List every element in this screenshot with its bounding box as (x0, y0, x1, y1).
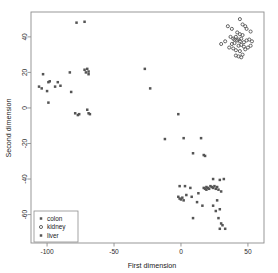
data-point-colon (177, 113, 180, 116)
x-axis-label: First dimension (128, 261, 177, 270)
data-point-kidney (238, 50, 241, 53)
data-point-liver (216, 199, 219, 202)
data-point-kidney (244, 48, 247, 51)
data-point-liver (192, 152, 195, 155)
data-point-liver (201, 204, 204, 207)
data-point-colon (78, 113, 81, 116)
data-point-liver (192, 217, 195, 220)
x-tick-label: -100 (40, 248, 54, 255)
data-points-layer (38, 18, 254, 230)
data-point-colon (47, 101, 50, 104)
series-kidney (220, 18, 254, 59)
y-tick-label: -40 (21, 174, 28, 184)
data-point-colon (46, 90, 49, 93)
series-liver (177, 137, 226, 230)
y-tick-label: 40 (21, 33, 28, 41)
data-point-kidney (250, 40, 253, 43)
data-point-colon (38, 85, 41, 88)
x-tick-label: 0 (179, 248, 183, 255)
data-point-liver (212, 204, 215, 207)
data-point-liver (217, 188, 220, 191)
data-point-colon (83, 69, 86, 72)
data-point-colon (57, 81, 60, 84)
data-point-colon (86, 68, 89, 71)
data-point-kidney (232, 47, 235, 50)
data-point-colon (87, 73, 90, 76)
data-point-colon (89, 113, 92, 116)
x-axis-ticks: -100-50050 (40, 243, 251, 255)
data-point-liver (224, 228, 227, 231)
plot-border (31, 12, 264, 243)
legend-label-liver: liver (47, 232, 60, 239)
data-point-colon (144, 68, 147, 71)
data-point-liver (213, 185, 216, 188)
data-point-kidney (249, 30, 252, 33)
data-point-kidney (234, 35, 237, 38)
data-point-liver (182, 137, 185, 140)
legend-label-kidney: kidney (47, 223, 66, 231)
data-point-colon (54, 85, 57, 88)
data-point-kidney (224, 40, 227, 43)
data-point-colon (48, 80, 51, 83)
data-point-liver (219, 179, 222, 182)
data-point-liver (217, 217, 220, 220)
x-tick-label: -50 (109, 248, 119, 255)
data-point-liver (185, 194, 188, 197)
data-point-liver (208, 188, 211, 191)
data-point-kidney (245, 27, 248, 30)
y-tick-label: 0 (21, 106, 28, 110)
data-point-liver (190, 196, 193, 199)
data-point-kidney (238, 18, 241, 21)
data-point-colon (59, 84, 62, 87)
y-tick-label: -60 (21, 209, 28, 219)
data-point-liver (189, 187, 192, 190)
data-point-colon (70, 91, 73, 94)
scatter-plot-figure: -100-50050 40200-20-40-60 First dimensio… (0, 0, 278, 273)
data-point-colon (74, 112, 77, 115)
data-point-liver (178, 185, 181, 188)
data-point-liver (181, 196, 184, 199)
data-point-kidney (226, 25, 229, 28)
data-point-kidney (241, 53, 244, 56)
data-point-kidney (249, 44, 252, 47)
legend-marker-liver (40, 234, 43, 237)
data-point-kidney (220, 42, 223, 45)
data-point-liver (182, 199, 185, 202)
data-point-liver (212, 178, 215, 181)
legend-label-colon: colon (47, 215, 63, 222)
data-point-liver (216, 186, 219, 189)
x-tick-label: 50 (244, 248, 252, 255)
data-point-colon (40, 87, 43, 90)
data-point-liver (219, 228, 222, 231)
y-tick-label: -20 (21, 138, 28, 148)
data-point-colon (42, 73, 45, 76)
data-point-kidney (230, 27, 233, 30)
data-point-colon (86, 108, 89, 111)
data-point-liver (215, 210, 218, 213)
data-point-colon (164, 138, 167, 141)
y-tick-label: 20 (21, 68, 28, 76)
data-point-liver (196, 201, 199, 204)
legend: colonkidneyliver (34, 211, 78, 242)
data-point-liver (184, 185, 187, 188)
data-point-colon (149, 87, 152, 90)
data-point-liver (205, 186, 208, 189)
plot-frame (31, 12, 264, 243)
data-point-colon (69, 71, 72, 74)
plot-canvas: -100-50050 40200-20-40-60 First dimensio… (0, 0, 278, 273)
series-colon (38, 21, 180, 141)
data-point-colon (87, 70, 90, 73)
data-point-kidney (228, 46, 231, 49)
data-point-liver (200, 137, 203, 140)
data-point-liver (223, 178, 226, 181)
data-point-liver (197, 192, 200, 195)
data-point-liver (219, 208, 222, 211)
y-axis-label: Second dimension (4, 98, 13, 157)
data-point-colon (83, 21, 86, 24)
y-axis-ticks: 40200-20-40-60 (21, 33, 31, 219)
data-point-liver (221, 224, 224, 227)
legend-marker-colon (40, 217, 43, 220)
data-point-liver (220, 190, 223, 193)
data-point-colon (75, 21, 78, 24)
data-point-liver (204, 155, 207, 158)
